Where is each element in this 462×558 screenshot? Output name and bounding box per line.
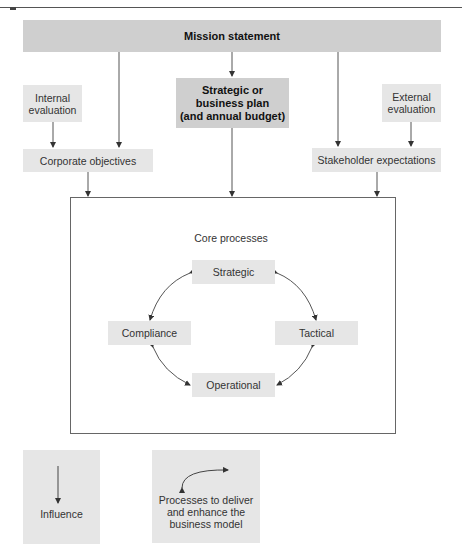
legend-influence-label: Influence xyxy=(23,508,100,520)
business-plan-line-2: business plan xyxy=(180,97,285,110)
external-evaluation-line-2: evaluation xyxy=(388,103,436,115)
legend-process: Processes to deliver and enhance the bus… xyxy=(152,450,260,543)
compliance-node: Compliance xyxy=(108,321,191,345)
strategic-node: Strategic xyxy=(192,260,275,284)
tactical-label: Tactical xyxy=(299,327,334,339)
external-evaluation-node: External evaluation xyxy=(382,84,441,122)
business-plan-node: Strategic or business plan (and annual b… xyxy=(176,78,289,128)
legend-process-line-3: business model xyxy=(152,518,260,530)
external-evaluation-line-1: External xyxy=(388,91,436,103)
strategic-label: Strategic xyxy=(213,266,254,278)
mission-statement-node: Mission statement xyxy=(23,20,441,52)
corporate-objectives-label: Corporate objectives xyxy=(40,155,136,167)
operational-label: Operational xyxy=(206,379,260,391)
internal-evaluation-node: Internal evaluation xyxy=(23,85,82,122)
mission-statement-label: Mission statement xyxy=(184,30,280,42)
internal-evaluation-line-2: evaluation xyxy=(29,104,77,116)
arrow-down-icon xyxy=(23,450,100,544)
tactical-node: Tactical xyxy=(275,321,358,345)
business-plan-line-1: Strategic or xyxy=(180,84,285,97)
business-plan-line-3: (and annual budget) xyxy=(180,110,285,123)
stakeholder-expectations-node: Stakeholder expectations xyxy=(312,148,441,172)
legend-process-text: Processes to deliver and enhance the bus… xyxy=(152,494,260,530)
stakeholder-expectations-label: Stakeholder expectations xyxy=(318,154,436,166)
operational-node: Operational xyxy=(192,373,275,397)
compliance-label: Compliance xyxy=(122,327,177,339)
core-processes-title: Core processes xyxy=(180,232,282,244)
legend-process-line-1: Processes to deliver xyxy=(152,494,260,506)
legend-process-line-2: and enhance the xyxy=(152,506,260,518)
internal-evaluation-line-1: Internal xyxy=(29,92,77,104)
legend-influence: Influence xyxy=(23,450,100,544)
corporate-objectives-node: Corporate objectives xyxy=(23,149,153,172)
